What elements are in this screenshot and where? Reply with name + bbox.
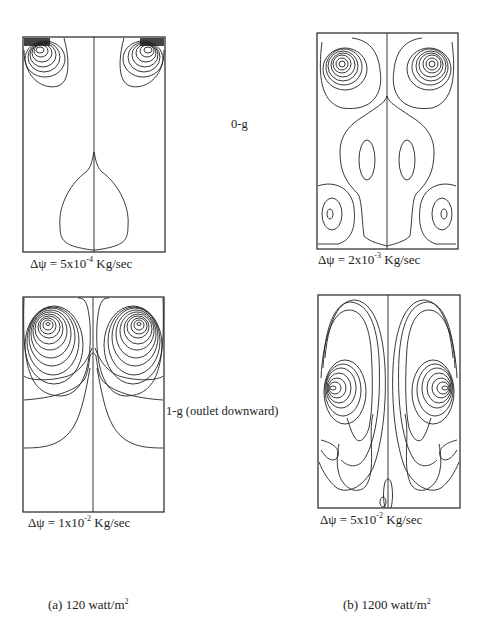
streamline-plot-b-1g (317, 294, 463, 516)
streamline-plot-a-0g (22, 36, 168, 258)
caption-a-1g: Δψ = 1x10-2 Kg/sec (28, 515, 130, 531)
panel-b-0g (316, 32, 462, 254)
streamline-plot-b-0g (316, 32, 462, 254)
column-label-a: (a) 120 watt/m2 (48, 597, 129, 613)
panel-a-1g (22, 296, 168, 518)
caption-b-0g: Δψ = 2x10-3 Kg/sec (318, 252, 420, 268)
column-label-b: (b) 1200 watt/m2 (343, 597, 431, 613)
streamline-plot-a-1g (22, 296, 168, 518)
caption-b-1g: Δψ = 5x10-2 Kg/sec (320, 512, 422, 528)
row-label-0g: 0-g (231, 117, 248, 132)
row-label-1g: 1-g (outlet downward) (166, 404, 278, 419)
panel-a-0g (22, 36, 168, 258)
panel-b-1g (317, 294, 463, 516)
caption-a-0g: Δψ = 5x10-4 Kg/sec (30, 256, 132, 272)
